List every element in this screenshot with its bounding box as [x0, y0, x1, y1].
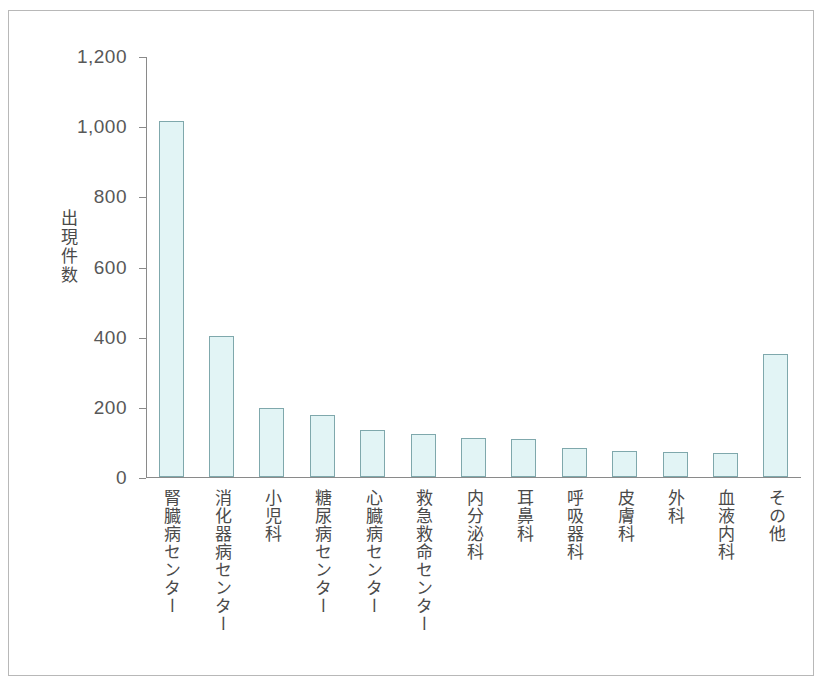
y-tick-1000: 1,000: [139, 127, 146, 128]
bar: [209, 336, 234, 477]
x-axis-label: 腎臓病センター: [159, 489, 184, 615]
x-axis-label: 耳鼻科: [511, 489, 536, 543]
plot-area: 1,2001,0008006004002000: [146, 57, 801, 478]
x-axis-line: [146, 477, 801, 478]
y-tick-label: 0: [116, 467, 127, 489]
y-tick-label: 1,200: [77, 46, 127, 68]
y-tick-200: 200: [139, 408, 146, 409]
bar: [713, 453, 738, 477]
y-tick-label: 400: [94, 327, 127, 349]
x-axis-label: 外科: [663, 489, 688, 525]
bar: [612, 451, 637, 477]
x-axis-label: 皮膚科: [612, 489, 637, 543]
x-axis-label: 消化器病センター: [209, 489, 234, 633]
y-axis-title: 出現件数: [55, 209, 80, 285]
x-axis-label: その他: [763, 489, 788, 543]
x-axis-label: 血液内科: [713, 489, 738, 561]
x-axis-label: 糖尿病センター: [310, 489, 335, 615]
y-axis-line: [146, 57, 147, 478]
chart-figure: 出現件数 1,2001,0008006004002000 腎臓病センター消化器病…: [8, 10, 814, 676]
y-tick-600: 600: [139, 268, 146, 269]
bar: [461, 438, 486, 477]
bar: [763, 354, 788, 477]
y-tick-400: 400: [139, 338, 146, 339]
y-tick-800: 800: [139, 197, 146, 198]
bar: [159, 121, 184, 477]
bar: [310, 415, 335, 477]
bar: [360, 430, 385, 477]
y-tick-1200: 1,200: [139, 57, 146, 58]
bar: [411, 434, 436, 477]
x-axis-label: 心臓病センター: [360, 489, 385, 615]
x-axis-label: 呼吸器科: [562, 489, 587, 561]
bar: [259, 408, 284, 477]
x-axis-label: 救急救命センター: [411, 489, 436, 633]
y-tick-label: 800: [94, 186, 127, 208]
y-tick-label: 600: [94, 257, 127, 279]
x-axis-label: 小児科: [259, 489, 284, 543]
y-tick-label: 200: [94, 397, 127, 419]
y-tick-0: 0: [139, 478, 146, 479]
bar: [562, 448, 587, 477]
x-axis-label: 内分泌科: [461, 489, 486, 561]
x-axis-labels: 腎臓病センター消化器病センター小児科糖尿病センター心臓病センター救急救命センター…: [146, 489, 801, 669]
bar: [663, 452, 688, 477]
y-tick-label: 1,000: [77, 116, 127, 138]
bar: [511, 439, 536, 477]
